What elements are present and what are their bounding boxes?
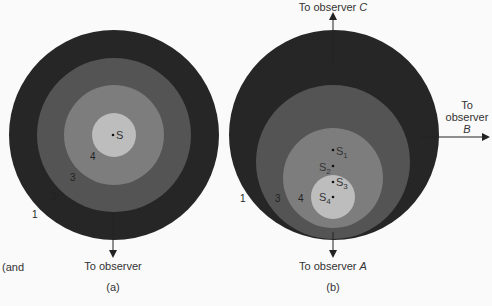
panel-b: S1 S2 S3 S4 1 3 4 To observer C To obser… xyxy=(229,1,489,293)
observer-label: To observer xyxy=(84,260,142,272)
ring-number-2: 2 xyxy=(51,191,57,202)
side-text: (and xyxy=(2,261,24,273)
caption-b: (b) xyxy=(326,281,339,293)
observer-b-letter: B xyxy=(463,123,470,135)
source-dot xyxy=(112,134,115,137)
ring-number-1: 1 xyxy=(240,193,246,204)
diagram-canvas: S 4 3 2 1 To observer (a) (and S1 S2 S3 … xyxy=(0,0,492,306)
source-dot-3 xyxy=(332,181,335,184)
source-label: S xyxy=(116,129,123,141)
observer-a-label: To observer A xyxy=(299,260,367,272)
ring-number-3: 3 xyxy=(275,193,281,204)
caption-a: (a) xyxy=(106,281,119,293)
panel-a: S 4 3 2 1 To observer (a) (and xyxy=(2,30,219,293)
source-dot-4 xyxy=(332,196,335,199)
source-dot-2 xyxy=(332,165,335,168)
ring-number-4: 4 xyxy=(298,193,304,204)
ring-number-1: 1 xyxy=(32,209,38,220)
observer-b-line2: observer xyxy=(446,111,489,123)
source-dot-1 xyxy=(332,149,335,152)
ring-number-4: 4 xyxy=(90,151,96,162)
observer-b-line1: To xyxy=(461,99,473,111)
observer-c-label: To observer C xyxy=(299,1,368,13)
ring-number-3: 3 xyxy=(70,172,76,183)
